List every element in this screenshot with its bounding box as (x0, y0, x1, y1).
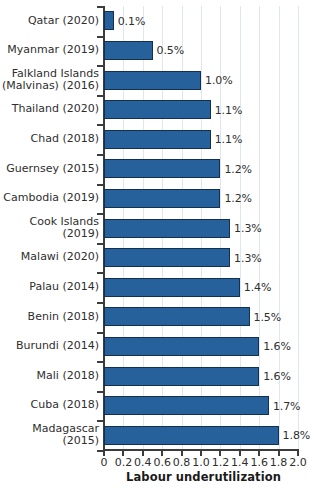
bar[interactable] (104, 130, 211, 149)
category-label-text: Benin (2018) (28, 311, 99, 324)
category-label-text: Falkland Islands (Malvinas) (2016) (2, 68, 99, 93)
y-axis-tick (97, 272, 103, 274)
bar-row: 1.1% (104, 130, 298, 149)
category-label: Qatar (2020) (0, 11, 99, 30)
bar-row: 1.3% (104, 219, 298, 238)
bar-value-label: 1.2% (224, 162, 252, 175)
bar-row: 1.2% (104, 189, 298, 208)
bar-row: 1.6% (104, 367, 298, 386)
category-label: Cook Islands (2019) (0, 219, 99, 238)
y-axis-tick (97, 184, 103, 186)
x-axis-title: Labour underutilization (0, 470, 311, 484)
x-axis-tick-label: 0.2 (115, 456, 133, 469)
bar[interactable] (104, 426, 279, 445)
bar-value-label: 1.8% (283, 429, 311, 442)
bar[interactable] (104, 71, 201, 90)
category-label: Mali (2018) (0, 367, 99, 386)
category-label-text: Madagascar (2015) (0, 423, 99, 448)
category-label-text: Thailand (2020) (12, 103, 99, 116)
category-label: Burundi (2014) (0, 337, 99, 356)
bar-value-label: 1.6% (263, 340, 291, 353)
bar[interactable] (104, 367, 259, 386)
category-label: Malawi (2020) (0, 248, 99, 267)
bar-row: 1.8% (104, 426, 298, 445)
x-axis-tick-label: 0.6 (153, 456, 171, 469)
bar[interactable] (104, 11, 114, 30)
x-axis-tick-label: 2.0 (289, 456, 307, 469)
category-label-text: Guernsey (2015) (6, 163, 99, 176)
x-axis-title-text: Labour underutilization (126, 470, 281, 484)
bar-value-label: 0.5% (157, 44, 185, 57)
bar-value-label: 1.2% (224, 192, 252, 205)
category-label: Cambodia (2019) (0, 189, 99, 208)
category-label-text: Chad (2018) (31, 133, 99, 146)
bar-row: 1.1% (104, 100, 298, 119)
category-label-text: Mali (2018) (37, 370, 99, 383)
bar-row: 1.0% (104, 71, 298, 90)
bar-value-label: 1.1% (215, 133, 243, 146)
y-axis-tick (97, 332, 103, 334)
category-label: Benin (2018) (0, 307, 99, 326)
bar[interactable] (104, 219, 230, 238)
y-axis-tick (97, 6, 103, 8)
bar[interactable] (104, 248, 230, 267)
bar[interactable] (104, 396, 269, 415)
x-axis-tick-label: 0.8 (173, 456, 191, 469)
y-axis-tick (97, 243, 103, 245)
category-label-text: Burundi (2014) (16, 340, 99, 353)
bar[interactable] (104, 41, 153, 60)
gridline (298, 6, 299, 450)
x-axis-tick-label: 1.4 (231, 456, 249, 469)
bar-value-label: 1.4% (244, 281, 272, 294)
x-axis-tick-label: 1.0 (192, 456, 210, 469)
y-axis-tick (97, 361, 103, 363)
bar-row: 1.2% (104, 159, 298, 178)
category-label: Guernsey (2015) (0, 159, 99, 178)
category-label: Falkland Islands (Malvinas) (2016) (0, 71, 99, 90)
bar[interactable] (104, 337, 259, 356)
bar-value-label: 1.3% (234, 251, 262, 264)
bar-row: 1.3% (104, 248, 298, 267)
category-label-text: Cook Islands (2019) (0, 216, 99, 241)
y-axis-tick (97, 36, 103, 38)
x-axis-tick-label: 1.2 (212, 456, 230, 469)
bar-value-label: 1.0% (205, 74, 233, 87)
x-axis-tick-label: 1.6 (250, 456, 268, 469)
category-label-text: Malawi (2020) (21, 251, 99, 264)
bar[interactable] (104, 307, 250, 326)
bar-value-label: 1.1% (215, 103, 243, 116)
x-axis-tick-label: 0 (101, 456, 108, 469)
category-label: Myanmar (2019) (0, 41, 99, 60)
bar-row: 1.5% (104, 307, 298, 326)
bar[interactable] (104, 189, 220, 208)
bar[interactable] (104, 159, 220, 178)
category-label-text: Palau (2014) (29, 281, 99, 294)
category-label: Palau (2014) (0, 278, 99, 297)
bar-value-label: 0.1% (118, 14, 146, 27)
x-axis-tick-label: 1.8 (270, 456, 288, 469)
category-label: Thailand (2020) (0, 100, 99, 119)
bar-row: 0.5% (104, 41, 298, 60)
y-axis-tick (97, 450, 103, 452)
category-label: Madagascar (2015) (0, 426, 99, 445)
bar-value-label: 1.5% (254, 310, 282, 323)
category-label: Cuba (2018) (0, 396, 99, 415)
bar-value-label: 1.7% (273, 399, 301, 412)
y-axis-tick (97, 154, 103, 156)
bar-value-label: 1.3% (234, 222, 262, 235)
bar[interactable] (104, 100, 211, 119)
bar-row: 0.1% (104, 11, 298, 30)
category-label: Chad (2018) (0, 130, 99, 149)
x-axis-tick-label: 0.4 (134, 456, 152, 469)
y-axis-tick (97, 391, 103, 393)
category-label-text: Myanmar (2019) (7, 44, 99, 57)
category-label-text: Cuba (2018) (31, 399, 99, 412)
y-axis-tick (97, 302, 103, 304)
bar-chart: 00.20.40.60.81.01.21.41.61.82.0 0.1%0.5%… (0, 0, 311, 488)
bar-row: 1.7% (104, 396, 298, 415)
bar-row: 1.4% (104, 278, 298, 297)
bar[interactable] (104, 278, 240, 297)
y-axis-tick (97, 95, 103, 97)
category-label-text: Qatar (2020) (28, 15, 99, 28)
bar-value-label: 1.6% (263, 370, 291, 383)
